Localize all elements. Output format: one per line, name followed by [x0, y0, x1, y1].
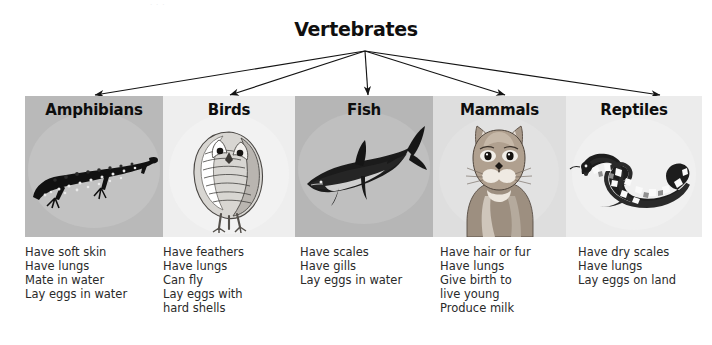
panel-amphibians[interactable]: Amphibians — [25, 96, 163, 237]
trait-item: Have dry scales — [578, 245, 712, 259]
group-panels-row: Amphibians — [25, 96, 702, 237]
trait-item: Have lungs — [163, 259, 300, 273]
trait-item: Lay eggs in water — [300, 273, 440, 287]
trait-item: Have lungs — [578, 259, 712, 273]
trait-item: Give birth to live young — [440, 273, 532, 301]
trait-item: Have scales — [300, 245, 440, 259]
arrow-to-reptiles — [365, 51, 660, 95]
vertebrates-diagram: · · · Vertebrates — [0, 0, 712, 345]
trait-item: Have feathers — [163, 245, 300, 259]
trait-list-mammals: Have hair or fur Have lungs Give birth t… — [440, 245, 578, 343]
panel-title-amphibians: Amphibians — [25, 101, 163, 119]
trait-lists-row: Have soft skin Have lungs Mate in water … — [25, 245, 712, 343]
trait-item: Have gills — [300, 259, 440, 273]
trait-list-fish: Have scales Have gills Lay eggs in water — [300, 245, 440, 343]
trait-item: Produce milk — [440, 301, 578, 315]
panel-title-fish: Fish — [295, 101, 433, 119]
panel-title-reptiles: Reptiles — [566, 101, 702, 119]
panel-title-mammals: Mammals — [433, 101, 566, 119]
trait-list-amphibians: Have soft skin Have lungs Mate in water … — [25, 245, 163, 343]
trait-item: Mate in water — [25, 273, 163, 287]
panel-fish[interactable]: Fish — [295, 96, 433, 237]
trait-item: Lay eggs with hard shells — [163, 287, 271, 315]
page-title: Vertebrates — [0, 18, 712, 40]
arrow-to-amphibians — [95, 51, 365, 95]
panel-reptiles[interactable]: Reptiles — [566, 96, 702, 237]
arrow-to-birds — [230, 51, 365, 95]
trait-item: Have lungs — [25, 259, 163, 273]
trait-list-reptiles: Have dry scales Have lungs Lay eggs on l… — [578, 245, 712, 343]
arrow-to-mammals — [365, 51, 505, 95]
scan-artifact: · · · — [150, 1, 300, 9]
trait-item: Have soft skin — [25, 245, 163, 259]
trait-list-birds: Have feathers Have lungs Can fly Lay egg… — [163, 245, 300, 343]
arrow-to-fish — [365, 51, 368, 95]
panel-birds[interactable]: Birds — [163, 96, 295, 237]
panel-title-birds: Birds — [163, 101, 295, 119]
trait-item: Lay eggs on land — [578, 273, 712, 287]
trait-item: Can fly — [163, 273, 300, 287]
trait-item: Have lungs — [440, 259, 578, 273]
trait-item: Have hair or fur — [440, 245, 578, 259]
trait-item: Lay eggs in water — [25, 287, 163, 301]
panel-mammals[interactable]: Mammals — [433, 96, 566, 237]
